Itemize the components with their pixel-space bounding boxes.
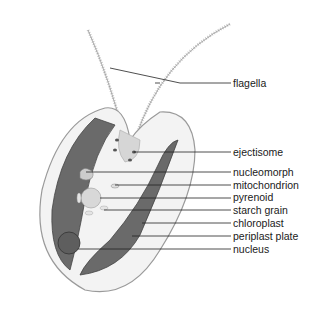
label-pyrenoid: pyrenoid bbox=[233, 191, 273, 203]
label-ejectisome: ejectisome bbox=[233, 146, 283, 158]
label-periplast-plate: periplast plate bbox=[233, 230, 298, 242]
label-chloroplast: chloroplast bbox=[233, 217, 284, 229]
nucleus bbox=[58, 232, 80, 254]
label-nucleomorph: nucleomorph bbox=[233, 166, 294, 178]
label-nucleus: nucleus bbox=[233, 243, 269, 255]
cryptomonad-diagram: flagella ejectisome nucleomorph mitochon… bbox=[0, 0, 316, 309]
label-mitochondrion: mitochondrion bbox=[233, 179, 299, 191]
label-starch-grain: starch grain bbox=[233, 204, 288, 216]
label-flagella: flagella bbox=[233, 77, 266, 89]
pyrenoid bbox=[81, 188, 101, 208]
